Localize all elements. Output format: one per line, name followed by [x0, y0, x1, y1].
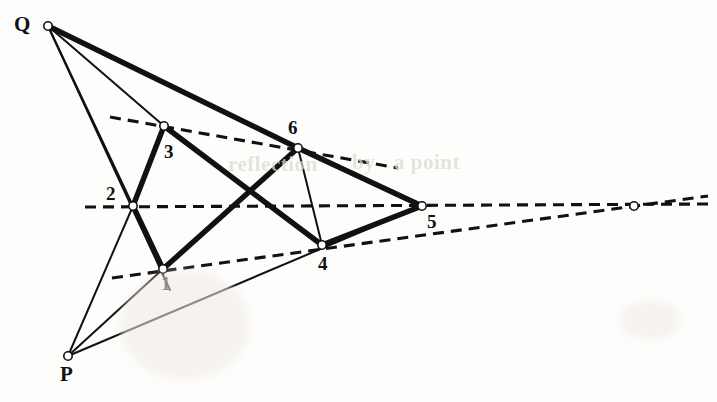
edge-1-2 — [133, 206, 163, 269]
geometry-figure: reflectionbya point QP123456 — [0, 0, 717, 402]
vertex-label-2: 2 — [106, 184, 116, 203]
edge-2-3 — [133, 126, 164, 206]
vertex-label-3: 3 — [164, 142, 174, 161]
vertex-marker-6 — [294, 144, 302, 152]
vertex-marker-5 — [418, 202, 426, 210]
vertex-marker-P — [64, 352, 72, 360]
vertex-marker-2 — [129, 202, 137, 210]
vertex-label-5: 5 — [427, 212, 437, 231]
pascal-line-middle — [85, 204, 708, 207]
edge-4-5 — [322, 206, 422, 245]
vertex-label-P: P — [60, 364, 73, 385]
vertex-marker-Q — [44, 22, 52, 30]
vertex-marker-pX — [630, 202, 638, 210]
vertex-label-6: 6 — [288, 118, 298, 137]
vertex-marker-4 — [318, 241, 326, 249]
bleed-through-text: by — [352, 150, 375, 175]
vertex-marker-3 — [160, 122, 168, 130]
paper-smudge — [120, 270, 250, 380]
bleed-through-text: reflection — [228, 152, 318, 177]
paper-smudge-2 — [620, 300, 680, 340]
bleed-through-text: a point — [394, 150, 460, 175]
vertex-label-4: 4 — [318, 254, 328, 273]
vertex-label-Q: Q — [14, 14, 30, 35]
